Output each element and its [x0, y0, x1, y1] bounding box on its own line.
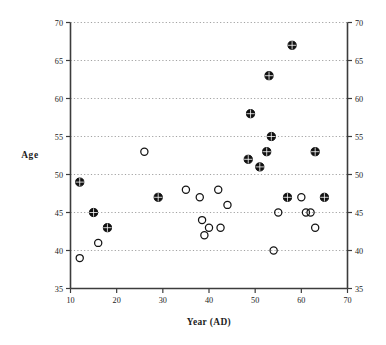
x-tick-label: 60	[297, 296, 305, 305]
y-tick-label-left: 45	[55, 209, 63, 218]
x-tick-label: 30	[159, 296, 167, 305]
data-point-open[interactable]	[182, 186, 189, 193]
data-point-open[interactable]	[217, 224, 224, 231]
y-tick-label-right: 65	[355, 57, 363, 66]
scatter-figure: 3535404045455050555560606565707010203040…	[0, 0, 386, 345]
y-tick-label-left: 70	[55, 19, 63, 28]
data-point-open[interactable]	[298, 194, 305, 201]
data-point-open[interactable]	[95, 239, 102, 246]
x-tick-label: 50	[251, 296, 259, 305]
x-tick-label: 20	[113, 296, 121, 305]
y-tick-label-right: 70	[355, 19, 363, 28]
x-tick-label: 40	[205, 296, 213, 305]
data-point-open[interactable]	[224, 201, 231, 208]
y-tick-label-left: 65	[55, 57, 63, 66]
data-point-open[interactable]	[76, 255, 83, 262]
y-tick-label-left: 60	[55, 95, 63, 104]
y-tick-label-left: 40	[55, 247, 63, 256]
y-tick-label-left: 50	[55, 171, 63, 180]
y-tick-label-right: 50	[355, 171, 363, 180]
plot-canvas: 3535404045455050555560606565707010203040…	[0, 0, 386, 345]
y-axis-title: Age	[21, 150, 39, 160]
y-tick-label-right: 60	[355, 95, 363, 104]
data-point-open[interactable]	[215, 186, 222, 193]
y-tick-label-right: 55	[355, 133, 363, 142]
x-tick-label: 10	[66, 296, 74, 305]
y-tick-label-left: 55	[55, 133, 63, 142]
y-tick-label-right: 45	[355, 209, 363, 218]
y-tick-label-right: 35	[355, 285, 363, 294]
data-point-open[interactable]	[201, 232, 208, 239]
data-point-open[interactable]	[141, 148, 148, 155]
data-point-open[interactable]	[196, 194, 203, 201]
data-point-open[interactable]	[312, 224, 319, 231]
data-point-open[interactable]	[198, 217, 205, 224]
y-tick-label-left: 35	[55, 285, 63, 294]
x-axis-title: Year (AD)	[187, 317, 231, 328]
figure-caption	[0, 337, 386, 345]
x-tick-label: 70	[343, 296, 351, 305]
data-point-open[interactable]	[205, 224, 212, 231]
y-tick-label-right: 40	[355, 247, 363, 256]
